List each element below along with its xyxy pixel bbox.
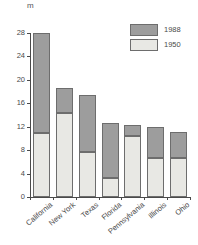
x-tick [53, 197, 54, 200]
bar-texas [79, 95, 96, 197]
plot-area: 0481216202428 CaliforniaNew YorkTexasFlo… [30, 33, 190, 197]
bar-segment-1988 [124, 125, 141, 136]
x-tick [99, 197, 100, 200]
x-tick [76, 197, 77, 200]
x-tick [30, 197, 31, 200]
legend-item-1950: 1950 [130, 39, 196, 52]
bar-segment-1988 [102, 123, 119, 178]
y-tick [27, 174, 30, 175]
y-tick-label: 8 [21, 146, 25, 154]
bar-segment-1950 [56, 113, 73, 197]
legend-item-1988: 1988 [130, 24, 196, 37]
bar-segment-1988 [33, 33, 50, 133]
chart-legend: 1988 1950 [130, 24, 196, 54]
legend-label-1950: 1950 [164, 41, 181, 49]
bar-california [33, 33, 50, 197]
y-tick-label: 12 [17, 123, 25, 131]
x-tick-label: Illinois [147, 201, 168, 221]
bar-pennsylvania [124, 125, 141, 197]
y-axis-unit-label: m [27, 1, 34, 10]
bar-illinois [147, 127, 164, 197]
y-axis-line [30, 33, 31, 197]
legend-swatch-1988 [130, 24, 158, 36]
x-tick [190, 197, 191, 200]
bar-segment-1988 [170, 132, 187, 158]
x-axis-line [30, 197, 190, 198]
bar-florida [102, 123, 119, 197]
y-tick [27, 103, 30, 104]
bar-segment-1988 [56, 88, 73, 113]
x-tick [144, 197, 145, 200]
y-tick [27, 33, 30, 34]
y-tick [27, 127, 30, 128]
y-tick [27, 150, 30, 151]
y-tick [27, 56, 30, 57]
x-tick [121, 197, 122, 200]
bar-ohio [170, 132, 187, 197]
legend-swatch-1950 [130, 39, 158, 51]
x-tick [167, 197, 168, 200]
y-tick-label: 20 [17, 76, 25, 84]
y-tick-label: 24 [17, 53, 25, 61]
bar-segment-1988 [147, 127, 164, 158]
bar-segment-1950 [124, 136, 141, 197]
x-tick-label: Ohio [174, 201, 191, 217]
y-tick-label: 4 [21, 170, 25, 178]
y-tick-label: 28 [17, 29, 25, 37]
bar-new-york [56, 88, 73, 197]
bar-chart: m 0481216202428 CaliforniaNew YorkTexasF… [0, 0, 198, 245]
legend-label-1988: 1988 [164, 26, 181, 34]
y-tick [27, 80, 30, 81]
bar-segment-1950 [102, 178, 119, 197]
bar-segment-1950 [33, 133, 50, 197]
bar-segment-1988 [79, 95, 96, 152]
x-tick-label: Texas [80, 201, 100, 220]
y-tick-label: 16 [17, 100, 25, 108]
y-tick-label: 0 [21, 193, 25, 201]
bar-segment-1950 [170, 158, 187, 197]
bar-segment-1950 [147, 158, 164, 197]
bar-segment-1950 [79, 152, 96, 197]
